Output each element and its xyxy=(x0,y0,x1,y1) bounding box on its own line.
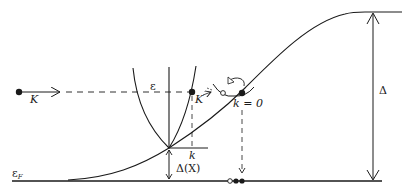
gap-delta-label: Δ xyxy=(379,84,387,97)
relative-momentum-label: k xyxy=(189,149,196,162)
particle-momentum-arrow xyxy=(203,92,211,95)
hole-open-dot xyxy=(221,91,226,96)
bound-particle-dot xyxy=(239,90,245,96)
diagram-canvas: Δ K ε K k Δ(X) k = 0 εF xyxy=(0,0,409,194)
gap-at-x-label: Δ(X) xyxy=(176,162,200,175)
incoming-momentum-label: K xyxy=(29,93,39,106)
particle-momentum-label: K xyxy=(194,93,204,106)
fermi-dot-filled-1 xyxy=(233,178,238,183)
energy-axis-label: ε xyxy=(150,80,156,93)
fermi-dot-filled-2 xyxy=(239,178,244,183)
hole-mark xyxy=(207,88,212,90)
fermi-dot-open xyxy=(228,179,233,184)
bound-state-label: k = 0 xyxy=(233,97,263,110)
fermi-level-label: εF xyxy=(12,167,24,181)
